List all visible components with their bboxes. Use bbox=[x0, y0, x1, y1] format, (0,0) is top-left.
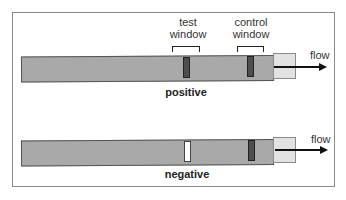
flow-arrow bbox=[275, 149, 326, 151]
positive-caption: positive bbox=[160, 86, 212, 98]
test-line bbox=[183, 57, 190, 78]
control-window-label-line1: control bbox=[228, 17, 274, 28]
flow-label: flow bbox=[310, 49, 330, 61]
test-window-label: test window bbox=[168, 17, 208, 40]
strip-body bbox=[21, 55, 274, 83]
strip-body bbox=[21, 139, 274, 167]
control-window-label-line2: window bbox=[228, 29, 274, 40]
control-line bbox=[248, 140, 255, 161]
test-window-empty bbox=[184, 141, 191, 162]
flow-arrow bbox=[274, 66, 325, 68]
test-window-label-line1: test bbox=[168, 17, 208, 28]
test-window-label-line2: window bbox=[168, 29, 208, 40]
test-window-bracket bbox=[172, 46, 200, 52]
flow-label: flow bbox=[311, 133, 331, 145]
control-window-bracket bbox=[237, 46, 264, 52]
negative-caption: negative bbox=[160, 168, 214, 180]
control-line bbox=[247, 56, 254, 77]
control-window-label: control window bbox=[228, 17, 274, 40]
